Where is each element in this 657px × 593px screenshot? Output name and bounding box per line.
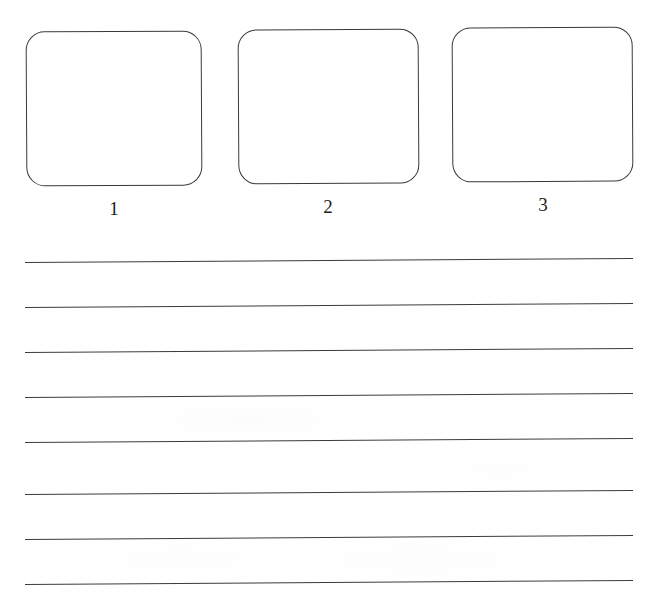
worksheet-page: 1 2 3 [0, 0, 657, 593]
rule-line-2 [25, 303, 633, 308]
rule-line-8 [25, 580, 633, 585]
rule-line-7 [25, 535, 633, 540]
rule-line-1 [25, 258, 633, 263]
ruled-writing-area[interactable] [0, 0, 657, 593]
rule-line-3 [25, 348, 633, 353]
rule-line-5 [25, 438, 633, 443]
rule-line-4 [25, 393, 633, 398]
rule-line-6 [25, 490, 633, 495]
